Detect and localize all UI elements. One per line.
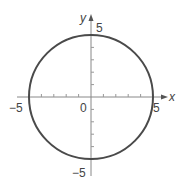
x-axis-arrow-icon [161, 95, 168, 100]
y-neg-tick-label: −5 [72, 166, 86, 180]
y-axis-label: y [79, 11, 87, 25]
origin-label: 0 [80, 101, 87, 115]
y-pos-tick-label: 5 [96, 21, 103, 35]
x-axis-label: x [168, 90, 176, 104]
circle-plot: y 5 x 5 −5 0 −5 [0, 0, 184, 184]
x-neg-tick-label: −5 [9, 101, 23, 115]
y-axis-arrow-icon [89, 14, 94, 21]
x-pos-tick-label: 5 [153, 101, 160, 115]
